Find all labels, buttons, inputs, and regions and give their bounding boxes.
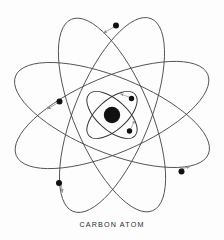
motion-arrow-icon bbox=[131, 121, 135, 129]
inner-electron-group bbox=[127, 96, 134, 134]
electron bbox=[56, 180, 62, 186]
electron bbox=[113, 23, 119, 29]
electron bbox=[129, 96, 134, 101]
motion-arrow-icon bbox=[121, 94, 130, 97]
electron bbox=[179, 169, 185, 175]
electron bbox=[57, 99, 63, 105]
motion-arrow-icon bbox=[104, 27, 115, 33]
nucleus bbox=[104, 107, 120, 123]
figure-caption: CARBON ATOM bbox=[0, 220, 224, 229]
atom-diagram bbox=[0, 0, 224, 240]
carbon-atom-figure: CARBON ATOM bbox=[0, 0, 224, 240]
electron bbox=[127, 128, 132, 133]
